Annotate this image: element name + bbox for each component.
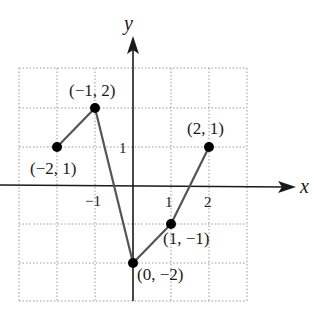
point-neg2-1 (52, 142, 62, 152)
point-neg1-2 (90, 103, 100, 113)
tick-x-2: 2 (204, 194, 212, 210)
point-2-1 (204, 142, 214, 152)
label-point-2-1: (2, 1) (187, 119, 224, 138)
coordinate-plane: x y −1 1 2 1 (−2, 1) (−1, 2) (0, −2) (1,… (0, 0, 314, 321)
label-point-1-neg1: (1, −1) (163, 229, 209, 248)
tick-x-neg1: −1 (85, 193, 101, 209)
x-axis (0, 185, 288, 187)
label-point-neg2-1: (−2, 1) (30, 159, 76, 178)
point-1-neg1 (166, 219, 176, 229)
y-axis-label: y (122, 12, 133, 35)
label-point-0-neg2: (0, −2) (137, 265, 183, 284)
tick-x-1: 1 (165, 194, 173, 210)
tick-y-1: 1 (119, 140, 127, 156)
label-point-neg1-2: (−1, 2) (69, 81, 115, 100)
x-axis-label: x (299, 175, 309, 197)
